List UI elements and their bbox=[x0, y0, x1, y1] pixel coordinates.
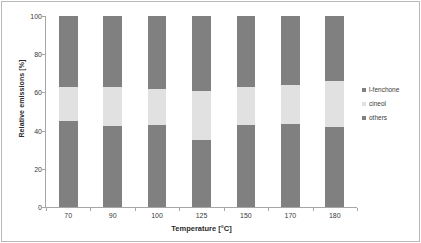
x-tick-label: 180 bbox=[329, 212, 341, 219]
bar-segment-cineol[interactable] bbox=[325, 81, 344, 127]
x-tick-mark bbox=[135, 208, 136, 211]
legend-label: others bbox=[369, 115, 387, 122]
bar-segment-others[interactable] bbox=[148, 125, 167, 207]
x-tick-label: 100 bbox=[151, 212, 163, 219]
x-tick-label: 150 bbox=[240, 212, 252, 219]
bar-column[interactable] bbox=[103, 16, 122, 207]
bar-segment-cineol[interactable] bbox=[237, 87, 256, 125]
legend-swatch-icon bbox=[362, 102, 366, 106]
bar-column[interactable] bbox=[237, 16, 256, 207]
bar-segment-l-fenchone[interactable] bbox=[237, 16, 256, 87]
bar-segment-cineol[interactable] bbox=[192, 91, 211, 141]
bar-stack bbox=[59, 16, 78, 207]
x-tick-mark bbox=[224, 208, 225, 211]
x-tick-mark bbox=[46, 208, 47, 211]
bar-segment-others[interactable] bbox=[325, 127, 344, 207]
y-tick-mark bbox=[41, 54, 45, 55]
y-tick-mark bbox=[41, 169, 45, 170]
x-tick-mark bbox=[90, 208, 91, 211]
y-tick-label: 60 bbox=[20, 89, 42, 96]
legend-swatch-icon bbox=[362, 88, 366, 92]
bar-segment-l-fenchone[interactable] bbox=[148, 16, 167, 89]
bar-segment-others[interactable] bbox=[59, 121, 78, 207]
bar-segment-cineol[interactable] bbox=[281, 85, 300, 124]
bar-segment-cineol[interactable] bbox=[148, 89, 167, 125]
bar-segment-l-fenchone[interactable] bbox=[103, 16, 122, 87]
y-tick-mark bbox=[41, 207, 45, 208]
y-tick-label: 0 bbox=[20, 204, 42, 211]
x-tick-label: 170 bbox=[285, 212, 297, 219]
bar-segment-cineol[interactable] bbox=[59, 87, 78, 121]
bar-segment-l-fenchone[interactable] bbox=[325, 16, 344, 81]
bar-stack bbox=[325, 16, 344, 207]
x-axis-line bbox=[45, 207, 357, 208]
legend-entry[interactable]: l-fenchone bbox=[362, 84, 418, 96]
bar-stack bbox=[103, 16, 122, 207]
x-axis-title: Temperature [°C] bbox=[46, 224, 357, 233]
x-tick-mark bbox=[179, 208, 180, 211]
x-axis-tick-labels: 7090100125150170180 bbox=[46, 212, 357, 224]
x-tick-mark bbox=[357, 208, 358, 211]
y-axis-tick-labels: 020406080100 bbox=[20, 12, 42, 211]
bar-stack bbox=[148, 16, 167, 207]
chart-legend: l-fenchonecineolothers bbox=[362, 84, 418, 126]
y-tick-mark bbox=[41, 131, 45, 132]
chart-figure: Relative emissions [%] 020406080100 7090… bbox=[0, 0, 421, 243]
bar-column[interactable] bbox=[59, 16, 78, 207]
legend-label: cineol bbox=[369, 101, 386, 108]
y-tick-label: 20 bbox=[20, 165, 42, 172]
legend-label: l-fenchone bbox=[369, 87, 399, 94]
bar-stack bbox=[281, 16, 300, 207]
x-tick-mark bbox=[313, 208, 314, 211]
bar-stack bbox=[237, 16, 256, 207]
bar-column[interactable] bbox=[281, 16, 300, 207]
plot-area bbox=[46, 16, 357, 207]
bar-segment-others[interactable] bbox=[103, 126, 122, 207]
bar-column[interactable] bbox=[325, 16, 344, 207]
bar-segment-cineol[interactable] bbox=[103, 87, 122, 126]
x-tick-label: 125 bbox=[196, 212, 208, 219]
y-tick-mark bbox=[41, 16, 45, 17]
bar-segment-l-fenchone[interactable] bbox=[281, 16, 300, 85]
y-tick-mark bbox=[41, 92, 45, 93]
bar-stack bbox=[192, 16, 211, 207]
bar-segment-others[interactable] bbox=[281, 124, 300, 207]
x-tick-label: 70 bbox=[64, 212, 72, 219]
bar-segment-others[interactable] bbox=[237, 125, 256, 207]
bar-column[interactable] bbox=[148, 16, 167, 207]
legend-swatch-icon bbox=[362, 116, 366, 120]
bar-column[interactable] bbox=[192, 16, 211, 207]
legend-entry[interactable]: cineol bbox=[362, 98, 418, 110]
y-tick-label: 40 bbox=[20, 127, 42, 134]
bar-segment-l-fenchone[interactable] bbox=[59, 16, 78, 87]
y-tick-label: 100 bbox=[20, 13, 42, 20]
x-tick-label: 90 bbox=[109, 212, 117, 219]
y-tick-label: 80 bbox=[20, 51, 42, 58]
bar-segment-l-fenchone[interactable] bbox=[192, 16, 211, 90]
bar-segment-others[interactable] bbox=[192, 140, 211, 207]
legend-entry[interactable]: others bbox=[362, 112, 418, 124]
x-tick-mark bbox=[268, 208, 269, 211]
